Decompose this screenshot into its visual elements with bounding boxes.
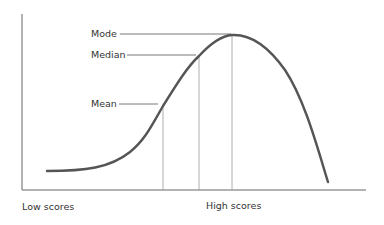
- high-scores-label: High scores: [206, 201, 261, 211]
- mean-label: Mean: [91, 99, 117, 109]
- low-scores-label: Low scores: [22, 202, 74, 212]
- skewed-distribution-chart: [0, 0, 384, 225]
- median-label: Median: [91, 50, 126, 60]
- mode-label: Mode: [91, 29, 117, 39]
- distribution-curve: [47, 35, 328, 182]
